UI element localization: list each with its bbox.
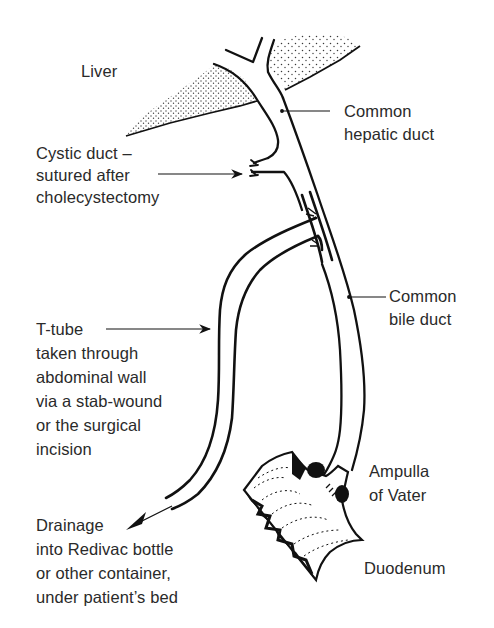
liver-right-lobe [268, 34, 358, 90]
t-tube-upper-limb-a [302, 195, 322, 262]
label-t-tube-line-6: incision [36, 437, 162, 461]
label-drainage-line-4: under patient’s bed [36, 585, 178, 609]
label-drainage-line-2: into Redivac bottle [36, 537, 178, 561]
t-tube [166, 192, 332, 509]
label-liver-line-1: Liver [81, 61, 117, 82]
label-t-tube-line-5: or the surgical [36, 413, 162, 437]
left-hepatic-duct [226, 38, 262, 62]
label-liver: Liver [81, 61, 117, 82]
label-drainage-line-1: Drainage [36, 513, 178, 537]
label-cystic-duct: Cystic duct – sutured after cholecystect… [36, 142, 159, 208]
label-common-hepatic-duct-line-1: Common [344, 100, 434, 123]
label-cystic-duct-line-2: sutured after [36, 164, 159, 186]
label-duodenum: Duodenum [364, 558, 446, 579]
label-ampulla-of-vater: Ampulla of Vater [369, 459, 429, 507]
common-duct-right-wall [283, 98, 365, 470]
label-common-hepatic-duct-line-2: hepatic duct [344, 123, 434, 146]
label-common-bile-duct-line-2: bile duct [389, 308, 457, 331]
label-cystic-duct-line-1: Cystic duct – [36, 142, 159, 164]
label-drainage: Drainage into Redivac bottle or other co… [36, 513, 178, 609]
label-t-tube-line-2: taken through [36, 341, 162, 365]
label-t-tube-line-4: via a stab-wound [36, 389, 162, 413]
label-t-tube-line-1: T-tube [36, 317, 162, 341]
label-duodenum-line-1: Duodenum [364, 558, 446, 579]
label-common-bile-duct-line-1: Common [389, 285, 457, 308]
label-common-bile-duct: Common bile duct [389, 285, 457, 331]
common-bile-duct-left-wall [318, 264, 342, 482]
common-duct-left-wall [252, 172, 302, 210]
duodenum [244, 452, 362, 580]
label-t-tube: T-tube taken through abdominal wall via … [36, 317, 162, 461]
label-t-tube-line-3: abdominal wall [36, 365, 162, 389]
label-cystic-duct-line-3: cholecystectomy [36, 186, 159, 208]
label-common-hepatic-duct: Common hepatic duct [344, 100, 434, 146]
liver [126, 34, 360, 136]
ampulla-lower-blob [335, 485, 349, 503]
label-drainage-line-3: or other container, [36, 561, 178, 585]
label-ampulla-line-1: Ampulla [369, 459, 429, 483]
ampulla-of-vater [307, 462, 325, 478]
label-ampulla-line-2: of Vater [369, 483, 429, 507]
